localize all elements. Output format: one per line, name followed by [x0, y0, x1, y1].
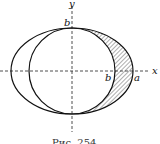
label-a-right: a — [134, 72, 140, 83]
x-axis-label: x — [152, 65, 158, 76]
y-axis-label: y — [68, 0, 75, 9]
label-b-right: b — [105, 72, 111, 83]
label-b-top: b — [64, 17, 70, 28]
figure-caption: Рис. 254 — [52, 137, 96, 144]
figure-diagram: y x b b a Рис. 254 — [0, 0, 160, 144]
